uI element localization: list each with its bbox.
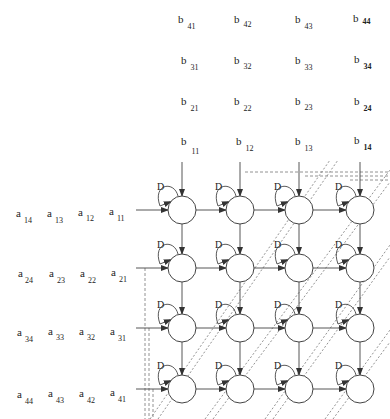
delay-label: D (157, 299, 164, 310)
delay-label: D (274, 181, 281, 192)
delay-label: D (335, 239, 342, 250)
processing-element-node (346, 196, 374, 224)
processing-element-node (226, 375, 254, 403)
processing-elements (168, 196, 374, 403)
delay-label: D (215, 299, 222, 310)
processing-element-node (226, 314, 254, 342)
processing-element-node (285, 375, 313, 403)
processing-element-node (168, 314, 196, 342)
delay-label: D (157, 181, 164, 192)
delay-label: D (335, 360, 342, 371)
processing-element-node (346, 314, 374, 342)
delay-label: D (335, 181, 342, 192)
processing-element-node (226, 196, 254, 224)
delay-label: D (215, 181, 222, 192)
processing-element-node (168, 254, 196, 282)
delay-label: D (215, 360, 222, 371)
delay-label: D (335, 299, 342, 310)
delay-label: D (215, 239, 222, 250)
processing-element-node (168, 196, 196, 224)
delay-label: D (274, 360, 281, 371)
processing-element-node (285, 314, 313, 342)
processing-element-node (346, 254, 374, 282)
processing-element-node (168, 375, 196, 403)
processing-element-node (346, 375, 374, 403)
systolic-array-diagram: DDDDDDDDDDDDDDDD (0, 0, 390, 419)
processing-element-node (285, 196, 313, 224)
processing-element-node (285, 254, 313, 282)
delay-label: D (274, 299, 281, 310)
delay-label: D (157, 360, 164, 371)
wavefront-line (325, 330, 390, 419)
processing-element-node (226, 254, 254, 282)
delay-label: D (157, 239, 164, 250)
delay-label: D (274, 239, 281, 250)
